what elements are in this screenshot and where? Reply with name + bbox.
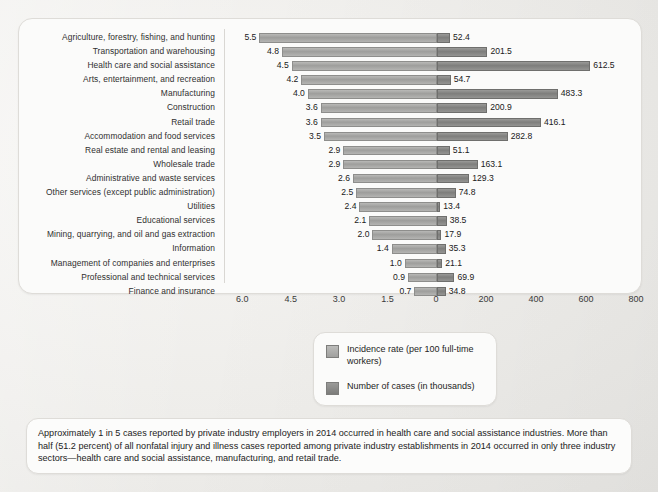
incidence-rate-value: 1.4 — [377, 241, 389, 255]
category-label: Management of companies and enterprises — [19, 256, 215, 270]
incidence-rate-bar — [324, 132, 437, 142]
number-of-cases-value: 200.9 — [490, 100, 512, 114]
category-label: Retail trade — [19, 115, 215, 129]
bar-track: 0.969.9 — [219, 271, 637, 285]
legend-label: Number of cases (in thousands) — [347, 381, 487, 395]
number-of-cases-value: 163.1 — [481, 157, 503, 171]
incidence-rate-bar — [369, 216, 437, 226]
bar-track: 4.8201.5 — [219, 45, 637, 59]
incidence-rate-value: 3.5 — [309, 129, 321, 143]
chart-row: Wholesale trade2.9163.1 — [19, 158, 641, 172]
number-of-cases-value: 201.5 — [490, 44, 512, 58]
number-of-cases-value: 21.1 — [445, 256, 462, 270]
number-of-cases-bar — [437, 216, 447, 226]
category-label: Educational services — [19, 213, 215, 227]
category-label: Agriculture, forestry, fishing, and hunt… — [19, 30, 215, 44]
incidence-rate-bar — [321, 118, 437, 128]
incidence-rate-bar — [372, 230, 437, 240]
number-of-cases-bar — [437, 61, 590, 71]
chart-row: Arts, entertainment, and recreation4.254… — [19, 73, 641, 87]
number-of-cases-bar — [437, 118, 541, 128]
light-grey-swatch-icon — [326, 345, 339, 358]
bar-track: 3.6416.1 — [219, 116, 637, 130]
bar-track: 3.6200.9 — [219, 101, 637, 115]
category-label: Construction — [19, 100, 215, 114]
number-of-cases-bar — [437, 188, 456, 198]
chart-row: Transportation and warehousing4.8201.5 — [19, 45, 641, 59]
number-of-cases-bar — [437, 244, 446, 254]
bar-track: 3.5282.8 — [219, 130, 637, 144]
category-label: Arts, entertainment, and recreation — [19, 72, 215, 86]
incidence-rate-value: 4.2 — [286, 72, 298, 86]
number-of-cases-value: 51.1 — [453, 143, 470, 157]
incidence-rate-bar — [405, 259, 437, 269]
number-of-cases-value: 69.9 — [457, 270, 474, 284]
incidence-rate-value: 2.5 — [341, 185, 353, 199]
axis-tick-label: 800 — [628, 294, 643, 304]
x-axis-tick-labels: 6.04.53.01.50200400600800 — [18, 294, 640, 310]
number-of-cases-value: 54.7 — [454, 72, 471, 86]
category-label: Transportation and warehousing — [19, 44, 215, 58]
number-of-cases-bar — [437, 259, 442, 269]
category-label: Manufacturing — [19, 86, 215, 100]
chart-row: Utilities2.413.4 — [19, 200, 641, 214]
axis-tick-label: 1.5 — [381, 294, 394, 304]
incidence-rate-value: 2.1 — [354, 213, 366, 227]
axis-tick-label: 6.0 — [236, 294, 249, 304]
category-label: Mining, quarrying, and oil and gas extra… — [19, 227, 215, 241]
category-label: Other services (except public administra… — [19, 185, 215, 199]
axis-tick-label: 4.5 — [284, 294, 297, 304]
bar-track: 4.5612.5 — [219, 59, 637, 73]
incidence-rate-value: 2.4 — [345, 199, 357, 213]
chart-row: Agriculture, forestry, fishing, and hunt… — [19, 31, 641, 45]
incidence-rate-bar — [259, 33, 437, 43]
axis-tick-label: 400 — [528, 294, 543, 304]
category-label: Real estate and rental and leasing — [19, 143, 215, 157]
incidence-rate-value: 4.0 — [293, 86, 305, 100]
incidence-rate-bar — [292, 61, 437, 71]
incidence-rate-bar — [343, 146, 437, 156]
number-of-cases-bar — [437, 202, 440, 212]
incidence-rate-bar — [321, 103, 437, 113]
footnote-box: Approximately 1 in 5 cases reported by p… — [26, 418, 632, 474]
chart-row: Professional and technical services0.969… — [19, 271, 641, 285]
bar-track: 1.435.3 — [219, 242, 637, 256]
category-label: Utilities — [19, 199, 215, 213]
incidence-rate-value: 4.8 — [267, 44, 279, 58]
bar-track: 1.021.1 — [219, 257, 637, 271]
incidence-rate-value: 2.6 — [338, 171, 350, 185]
number-of-cases-bar — [437, 75, 451, 85]
incidence-rate-value: 0.9 — [393, 270, 405, 284]
number-of-cases-value: 129.3 — [472, 171, 494, 185]
number-of-cases-bar — [437, 160, 478, 170]
category-label: Wholesale trade — [19, 157, 215, 171]
category-label: Information — [19, 241, 215, 255]
bar-track: 2.017.9 — [219, 228, 637, 242]
bar-track: 5.552.4 — [219, 31, 637, 45]
incidence-rate-bar — [359, 202, 437, 212]
incidence-rate-value: 1.0 — [390, 256, 402, 270]
category-label: Health care and social assistance — [19, 58, 215, 72]
number-of-cases-value: 13.4 — [443, 199, 460, 213]
legend-label: Incidence rate (per 100 full-time worker… — [347, 344, 487, 367]
chart-row: Accommodation and food services3.5282.8 — [19, 130, 641, 144]
incidence-rate-bar — [392, 244, 437, 254]
incidence-rate-bar — [356, 188, 437, 198]
number-of-cases-bar — [437, 47, 487, 57]
chart-row: Management of companies and enterprises1… — [19, 257, 641, 271]
incidence-rate-bar — [282, 47, 437, 57]
number-of-cases-value: 416.1 — [544, 115, 566, 129]
chart-row: Retail trade3.6416.1 — [19, 116, 641, 130]
chart-row: Educational services2.138.5 — [19, 214, 641, 228]
axis-tick-label: 200 — [478, 294, 493, 304]
bar-track: 2.413.4 — [219, 200, 637, 214]
incidence-rate-value: 2.0 — [357, 227, 369, 241]
bar-track: 4.0483.3 — [219, 87, 637, 101]
number-of-cases-value: 612.5 — [593, 58, 615, 72]
category-label: Professional and technical services — [19, 270, 215, 284]
number-of-cases-value: 74.8 — [459, 185, 476, 199]
number-of-cases-value: 17.9 — [444, 227, 461, 241]
number-of-cases-value: 282.8 — [511, 129, 533, 143]
bar-track: 2.9163.1 — [219, 158, 637, 172]
number-of-cases-bar — [437, 103, 487, 113]
